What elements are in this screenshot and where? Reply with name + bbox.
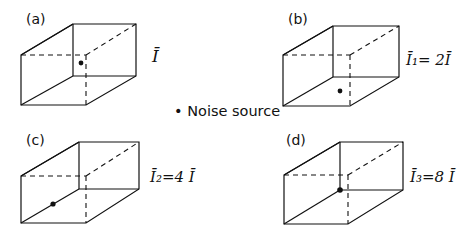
cube-a <box>21 24 136 105</box>
intensity-label-c: Ī₂=4 Ī <box>150 169 195 186</box>
legend: • Noise source <box>174 103 280 119</box>
legend-marker-icon: • <box>174 103 183 119</box>
noise-source-d <box>337 187 343 193</box>
noise-source-b <box>338 89 343 94</box>
panel-label-c: (c) <box>26 133 45 147</box>
cube-b <box>283 26 399 106</box>
panel-label-a: (a) <box>26 12 46 26</box>
cube-d <box>284 142 403 224</box>
intensity-label-a: Ī <box>152 48 159 65</box>
cube-c <box>21 142 139 223</box>
intensity-label-d: Ī₃=8 Ī <box>410 169 455 186</box>
noise-source-a <box>79 61 84 66</box>
noise-source-c <box>50 201 55 206</box>
panel-label-b: (b) <box>288 12 308 26</box>
legend-text: Noise source <box>187 103 280 119</box>
intensity-label-b: Ī₁= 2Ī <box>406 52 451 69</box>
panel-label-d: (d) <box>286 133 306 147</box>
